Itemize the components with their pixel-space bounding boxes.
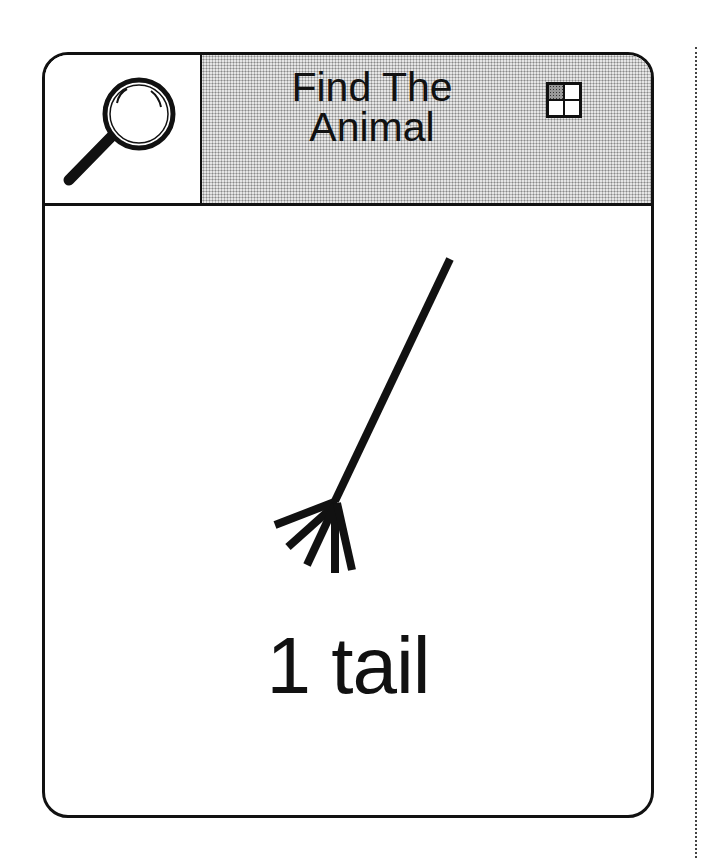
animal-clue-card: Find The Animal 1 tail <box>42 52 654 818</box>
dotted-divider <box>695 47 697 858</box>
clue-text: 1 tail <box>45 620 651 712</box>
